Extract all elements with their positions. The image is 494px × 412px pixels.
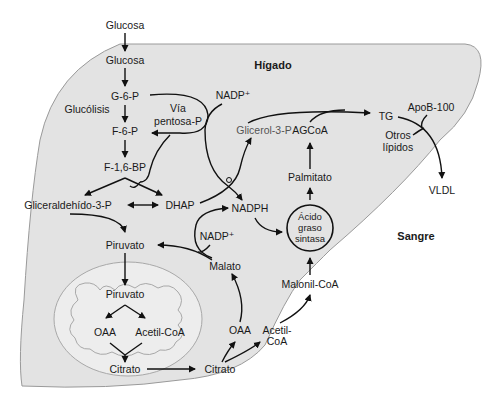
- node-piruvato-mito: Piruvato: [106, 288, 145, 300]
- node-malato: Malato: [209, 260, 241, 272]
- node-acido-2: graso: [298, 222, 322, 233]
- node-citrato-mito: Citrato: [110, 363, 141, 375]
- blood-label: Sangre: [397, 230, 434, 242]
- label-via-pentosa-1: Vía: [170, 102, 186, 114]
- node-acido-3: sintasa: [295, 233, 326, 244]
- node-nadph: NADPH: [232, 202, 269, 214]
- node-nadp-top: NADP⁺: [216, 89, 251, 101]
- node-acido-1: Ácido: [298, 211, 322, 222]
- node-agcoa: AGCoA: [292, 124, 328, 136]
- node-glicerol3p: Glicerol-3-P: [236, 124, 291, 136]
- node-malonil: Malonil-CoA: [281, 278, 338, 290]
- node-dhap: DHAP: [165, 199, 194, 211]
- node-glucosa-blood: Glucosa: [106, 19, 145, 31]
- liver-label: Hígado: [254, 59, 292, 71]
- mitochondrion: [54, 262, 202, 376]
- label-via-pentosa-2: pentosa-P: [154, 115, 202, 127]
- label-glucolisis: Glucólisis: [65, 103, 110, 115]
- node-piruvato-cyt: Piruvato: [106, 239, 145, 251]
- node-f16bp: F-1,6-BP: [104, 161, 146, 173]
- lipogenesis-diagram: Hígado Sangre Glucosa Glucosa G-6-P Gluc…: [0, 0, 494, 412]
- node-oaa-mito: OAA: [94, 326, 116, 338]
- node-f6p: F-6-P: [112, 125, 138, 137]
- node-apob100: ApoB-100: [408, 101, 455, 113]
- node-otros-1: Otros: [385, 129, 411, 141]
- node-gliceraldehido: Gliceraldehído-3-P: [24, 199, 112, 211]
- node-nadp-mid: NADP⁺: [200, 230, 235, 242]
- node-oaa-cyt: OAA: [229, 324, 251, 336]
- node-vldl: VLDL: [429, 184, 455, 196]
- node-otros-2: lípidos: [383, 141, 413, 153]
- node-tg: TG: [379, 110, 394, 122]
- node-acetilcoa-mito: Acetil-CoA: [135, 326, 185, 338]
- node-acetil-cyt-2: CoA: [267, 335, 287, 347]
- node-glucosa: Glucosa: [106, 54, 145, 66]
- node-palmitato: Palmitato: [288, 171, 332, 183]
- node-citrato-cyt: Citrato: [205, 363, 236, 375]
- node-g6p: G-6-P: [111, 90, 139, 102]
